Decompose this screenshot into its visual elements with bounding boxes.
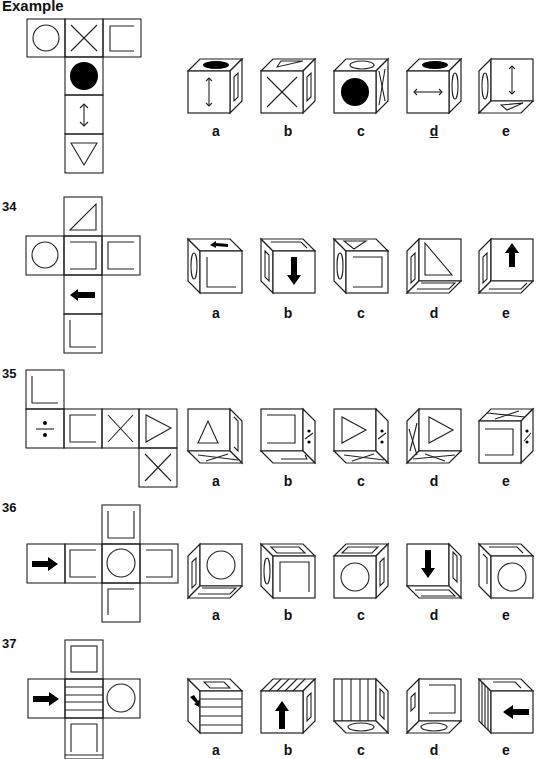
question-37-option-b-cube[interactable] [259, 677, 319, 737]
question-35-option-b-cube[interactable] [259, 407, 319, 467]
question-36-option-b-label: b [278, 607, 298, 623]
question-35-option-d-cube[interactable] [405, 407, 465, 467]
question-36-option-d-label: d [424, 607, 444, 623]
question-37-option-b-label: b [278, 742, 298, 758]
example-option-e-label: e [496, 123, 516, 139]
example-option-b-cube[interactable] [259, 57, 319, 117]
question-36-option-a-cube[interactable] [186, 542, 246, 602]
example-option-a-cube[interactable] [186, 57, 246, 117]
question-37-net [0, 630, 190, 759]
question-34-option-d-cube[interactable] [405, 237, 465, 297]
question-37-option-c-label: c [351, 742, 371, 758]
question-37-option-a-label: a [206, 742, 226, 758]
example-option-d-label: d [424, 123, 444, 139]
question-34-option-c-cube[interactable] [332, 237, 392, 297]
question-37-option-d-cube[interactable] [405, 677, 465, 737]
question-34-option-e-cube[interactable] [477, 237, 537, 297]
question-36-option-a-label: a [206, 607, 226, 623]
question-37-option-d-label: d [424, 742, 444, 758]
example-net [0, 0, 180, 180]
example-option-e-cube[interactable] [477, 57, 537, 117]
question-35-net [0, 360, 190, 500]
example-option-c-cube[interactable] [332, 57, 392, 117]
question-35-option-a-label: a [206, 473, 226, 489]
example-option-a-label: a [206, 123, 226, 139]
question-34-option-a-cube[interactable] [186, 237, 246, 297]
question-35-option-e-label: e [496, 473, 516, 489]
question-37-option-a-cube[interactable] [186, 677, 246, 737]
question-35-option-d-label: d [424, 473, 444, 489]
example-option-d-cube[interactable] [405, 57, 465, 117]
question-37-option-e-label: e [496, 742, 516, 758]
question-35-option-e-cube[interactable] [477, 407, 537, 467]
question-36-option-d-cube[interactable] [405, 542, 465, 602]
example-option-c-label: c [351, 123, 371, 139]
question-36-option-c-cube[interactable] [332, 542, 392, 602]
question-37-option-c-cube[interactable] [332, 677, 392, 737]
example-option-b-label: b [278, 123, 298, 139]
question-36-net [0, 495, 190, 635]
question-34-option-c-label: c [351, 305, 371, 321]
question-34-option-a-label: a [206, 305, 226, 321]
question-34-option-b-label: b [278, 305, 298, 321]
question-35-option-b-label: b [278, 473, 298, 489]
question-36-option-b-cube[interactable] [259, 542, 319, 602]
question-35-option-c-label: c [351, 473, 371, 489]
question-35-option-c-cube[interactable] [332, 407, 392, 467]
question-36-option-e-cube[interactable] [477, 542, 537, 602]
question-34-option-b-cube[interactable] [259, 237, 319, 297]
question-37-option-e-cube[interactable] [477, 677, 537, 737]
question-34-option-e-label: e [496, 305, 516, 321]
question-36-option-c-label: c [351, 607, 371, 623]
question-35-option-a-cube[interactable] [186, 407, 246, 467]
question-34-option-d-label: d [424, 305, 444, 321]
question-36-option-e-label: e [496, 607, 516, 623]
question-34-net [0, 190, 180, 360]
